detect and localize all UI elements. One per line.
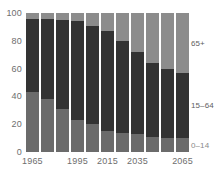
bar-segment-0-14 (161, 138, 174, 152)
bar-segment-65-plus (26, 13, 39, 19)
bar-segment-65-plus (71, 13, 84, 21)
x-axis: 19651995201520352065 (26, 153, 189, 171)
bar-segment-0-14 (41, 99, 54, 152)
stacked-bar (56, 13, 69, 152)
plot-area (26, 13, 189, 152)
y-axis-tick-label: 20 (12, 119, 22, 129)
stacked-bar (86, 13, 99, 152)
bar-segment-15-64 (26, 19, 39, 93)
stacked-bar (41, 13, 54, 152)
x-axis-tick-label: 1995 (67, 156, 88, 166)
series-label-0-14: 0–14 (191, 141, 209, 150)
y-axis-tick-label: 100 (6, 8, 22, 18)
x-axis-tick-label: 2015 (97, 156, 118, 166)
bar-segment-15-64 (161, 69, 174, 139)
y-axis: 020406080100 (0, 0, 26, 171)
series-label-65-plus: 65+ (191, 38, 205, 47)
bar-segment-15-64 (86, 26, 99, 125)
x-axis-tick-label: 2035 (127, 156, 148, 166)
stacked-bar (116, 13, 129, 152)
stacked-bar (131, 13, 144, 152)
series-label-15-64: 15–64 (191, 101, 214, 110)
bar-segment-15-64 (146, 63, 159, 137)
bar-segment-15-64 (71, 21, 84, 120)
population-age-structure-chart: 020406080100 19651995201520352065 65+ 15… (0, 0, 224, 171)
x-axis-tick-label: 1965 (22, 156, 43, 166)
stacked-bar (161, 13, 174, 152)
bar-segment-0-14 (116, 133, 129, 152)
bar-segment-0-14 (26, 92, 39, 152)
bar-segment-65-plus (161, 13, 174, 69)
y-axis-tick-label: 60 (12, 64, 22, 74)
bar-segment-0-14 (86, 124, 99, 152)
bar-segment-15-64 (41, 19, 54, 100)
bar-segment-15-64 (56, 20, 69, 109)
y-axis-tick-label: 40 (12, 91, 22, 101)
series-legend: 65+ 15–64 0–14 (191, 0, 224, 171)
stacked-bar (101, 13, 114, 152)
stacked-bar (71, 13, 84, 152)
bar-segment-15-64 (116, 41, 129, 133)
bar-segment-15-64 (131, 52, 144, 134)
bar-segment-65-plus (116, 13, 129, 41)
bar-segment-15-64 (101, 31, 114, 131)
bar-segment-0-14 (176, 138, 189, 152)
stacked-bar (176, 13, 189, 152)
stacked-bar (146, 13, 159, 152)
bar-segment-0-14 (56, 109, 69, 152)
bar-segment-0-14 (71, 120, 84, 152)
x-axis-tick-label: 2065 (172, 156, 193, 166)
bar-segment-0-14 (101, 131, 114, 152)
bar-segment-65-plus (41, 13, 54, 19)
y-axis-tick-label: 80 (12, 36, 22, 46)
bar-segment-65-plus (146, 13, 159, 63)
bar-segment-65-plus (131, 13, 144, 52)
bar-segment-65-plus (176, 13, 189, 73)
bar-segment-65-plus (56, 13, 69, 20)
bar-segment-15-64 (176, 73, 189, 138)
bar-segment-0-14 (146, 137, 159, 152)
bar-segment-65-plus (101, 13, 114, 31)
stacked-bar (26, 13, 39, 152)
bar-segment-0-14 (131, 134, 144, 152)
bar-segment-65-plus (86, 13, 99, 26)
